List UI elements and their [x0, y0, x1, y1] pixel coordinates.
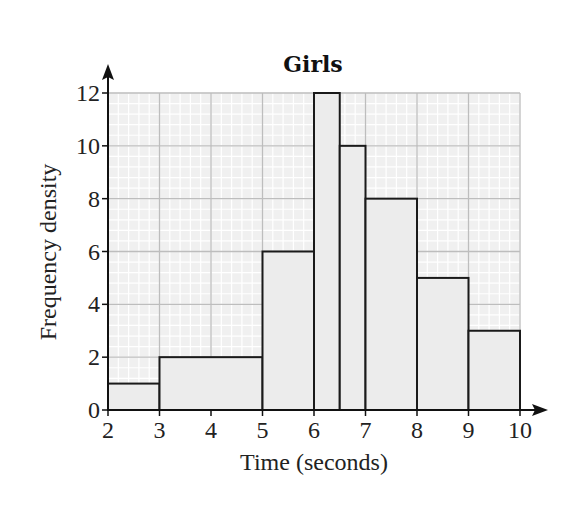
- x-tick-label: 10: [508, 417, 532, 443]
- x-axis-label: Time (seconds): [240, 449, 388, 475]
- y-tick-label: 12: [76, 80, 100, 106]
- histogram-bar: [263, 252, 315, 411]
- y-tick-label: 10: [76, 133, 100, 159]
- histogram-bar: [340, 146, 366, 410]
- x-tick-label: 7: [360, 417, 372, 443]
- histogram-bar: [108, 384, 160, 410]
- histogram-bar: [366, 199, 418, 410]
- histogram-chart: 2345678910024681012 Girls Time (seconds)…: [0, 0, 571, 506]
- x-tick-label: 6: [308, 417, 320, 443]
- histogram-bar: [160, 357, 263, 410]
- y-tick-label: 6: [88, 239, 100, 265]
- y-axis-label: Frequency density: [35, 164, 61, 341]
- y-tick-label: 8: [88, 186, 100, 212]
- x-tick-label: 3: [154, 417, 166, 443]
- y-tick-label: 4: [88, 291, 100, 317]
- chart-title: Girls: [283, 51, 342, 77]
- histogram-bar: [469, 331, 521, 410]
- histogram-bar: [417, 278, 469, 410]
- x-tick-label: 5: [257, 417, 269, 443]
- x-tick-label: 9: [463, 417, 475, 443]
- histogram-bar: [314, 93, 340, 410]
- x-tick-label: 2: [102, 417, 114, 443]
- x-tick-label: 8: [411, 417, 423, 443]
- y-tick-label: 2: [88, 344, 100, 370]
- y-tick-label: 0: [88, 397, 100, 423]
- x-tick-label: 4: [205, 417, 217, 443]
